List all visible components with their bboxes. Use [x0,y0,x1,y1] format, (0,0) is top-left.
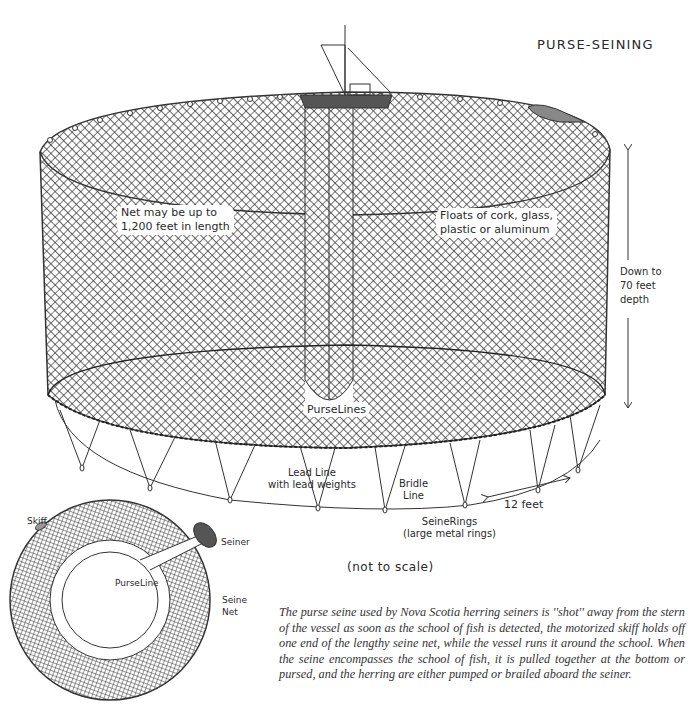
seine-rings-line-2: (large metal rings) [403,528,496,540]
seine-net-line-1: Seine [222,594,247,606]
lead-line-line-2: with lead weights [268,479,356,491]
top-view-inset [10,500,221,700]
not-to-scale-note: (not to scale) [347,560,434,574]
depth-line-2: 70 feet [620,279,662,293]
purse-line-label: PurseLine [115,578,159,588]
lead-line-label: Lead Line with lead weights [268,467,356,491]
seiner-label: Seiner [221,537,250,547]
depth-line-3: depth [620,293,662,307]
seiner-vessel-icon [300,25,392,108]
diagram-title: PURSE-SEINING [537,37,654,52]
bridle-line-line-2: Line [399,490,428,502]
seine-net-line-2: Net [222,606,247,618]
net-length-line-1: Net may be up to [121,206,230,220]
figure-caption: The purse seine used by Nova Scotia herr… [279,605,685,683]
floats-label: Floats of cork, glass, plastic or alumin… [436,208,557,238]
spacing-arrow [488,478,570,497]
floats-line-1: Floats of cork, glass, [440,209,553,223]
net-length-label: Net may be up to 1,200 feet in length [117,205,234,235]
depth-line-1: Down to [620,265,662,279]
ring-spacing-label: 12 feet [504,498,543,511]
lead-line-line-1: Lead Line [268,467,356,479]
bridle-line-line-1: Bridle [399,478,428,490]
skiff-label: Skiff [27,516,47,526]
seine-rings-label: SeineRings (large metal rings) [403,516,496,540]
net-length-line-2: 1,200 feet in length [121,220,230,234]
seine-rings-line-1: SeineRings [403,516,496,528]
net-wall [40,92,610,513]
purse-lines-label: PurseLines [303,402,370,417]
bridle-line-label: Bridle Line [399,478,428,502]
floats-line-2: plastic or aluminum [440,223,553,237]
seine-net-label: Seine Net [222,594,247,618]
depth-label: Down to 70 feet depth [620,265,662,307]
